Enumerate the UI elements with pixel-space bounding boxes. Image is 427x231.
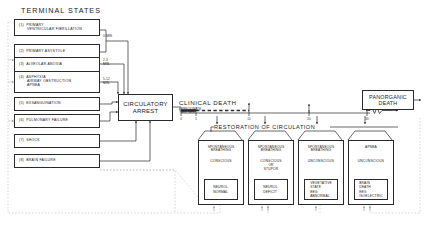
terminal-state-num-3: (3) [19,63,24,67]
diagram-canvas: TERMINAL STATES RESTORATION OF CIRCULATI… [0,0,427,231]
timeline-tick-30: 30 [365,117,368,121]
outcome-breathing-1: SPONTANEOUS BREATHING [199,146,243,154]
timeline-tick-20: 20 [307,117,310,121]
outcome-breathing-4: APNEA [349,146,393,150]
terminal-state-line-7a: SHOCK [26,139,40,143]
timeline-tick-5: 5 [195,117,197,121]
outcome-result-4: BRAIN DEATH EEG ISOELECTRIC [354,179,388,200]
terminal-state-box-7[interactable]: (7) SHOCK [14,134,100,148]
outcome-result-3: VEGETATIVE STATE EEG ABNORMAL [304,179,338,200]
restoration-of-circulation-label: RESTORATION OF CIRCULATION [214,124,315,130]
outcome-consciousness-4: UNCONSCIOUS [349,160,393,164]
outcome-consciousness-1: CONSCIOUS [199,160,243,164]
panorganic-death-box[interactable]: PANORGANIC DEATH [362,90,414,110]
outcome-result-1: NEUROL. NORMAL [204,179,238,200]
onset-label-5-12min: 5-12 MIN. [103,78,110,85]
terminal-state-line-8a: BRAIN FAILURE [26,159,56,163]
outcome-consciousness-3: UNCONSCIOUS [299,160,343,164]
terminal-state-num-5: (5) [19,102,24,106]
outcome-breathing-3: SPONTANEOUS BREATHING [299,146,343,154]
terminal-state-num-6: (6) [19,119,24,123]
outcome-column-2[interactable]: SPONTANEOUS BREATHING CONSCIOUS OR STUPO… [248,140,294,205]
terminal-state-box-1[interactable]: (1) PRIMARY VENTRICULAR FIBRILLATION [14,19,100,36]
outcome-column-1[interactable]: SPONTANEOUS BREATHING CONSCIOUS NEUROL. … [198,140,244,205]
terminal-state-box-4[interactable]: (4) ASPHYXIA AIRWAY OBSTRUCTION APNEA [14,71,100,93]
terminal-state-num-7: (7) [19,139,24,143]
outcome-breathing-2: SPONTANEOUS BREATHING [249,146,293,154]
timeline-tick-0: 0 [180,117,182,121]
terminal-state-box-3[interactable]: (3) ALVEOLAR ANOXIA [14,57,100,72]
terminal-state-line-6a: PULMONARY FAILURE [26,119,68,123]
terminal-state-num-2: (2) [19,50,24,54]
circulatory-arrest-box[interactable]: CIRCULATORY ARREST [118,94,173,121]
terminal-state-box-6[interactable]: (6) PULMONARY FAILURE [14,114,100,128]
outcome-column-4[interactable]: APNEA UNCONSCIOUS BRAIN DEATH EEG ISOELE… [348,140,394,205]
terminal-state-box-5[interactable]: (5) EXSANGUINATION [14,97,100,111]
terminal-state-line-3a: ALVEOLAR ANOXIA [26,63,62,67]
outcome-consciousness-2: CONSCIOUS OR STUPOR [249,160,293,172]
outcome-column-3[interactable]: SPONTANEOUS BREATHING UNCONSCIOUS VEGETA… [298,140,344,205]
clinical-death-label: CLINICAL DEATH [179,99,237,106]
timeline-tick-10: 10 [247,117,250,121]
terminal-state-line-4c: APNEA [27,84,40,88]
terminal-state-num-8: (8) [19,159,24,163]
terminal-state-line-1b: VENTRICULAR FIBRILLATION [27,28,82,32]
terminal-states-heading: TERMINAL STATES [21,6,101,15]
terminal-state-box-8[interactable]: (8) BRAIN FAILURE [14,154,100,168]
onset-label-0min: 0 MIN. [103,35,113,39]
outcome-result-2: NEUROL. DEFICIT [254,179,288,200]
onset-label-2-3min: 2-3 MIN. [103,59,110,66]
terminal-state-line-2a: PRIMARY ASYSTOLE [26,50,65,54]
terminal-state-line-5a: EXSANGUINATION [26,102,61,106]
approximate-time-label: APPROXIMATE TIME, MIN. [179,108,201,115]
